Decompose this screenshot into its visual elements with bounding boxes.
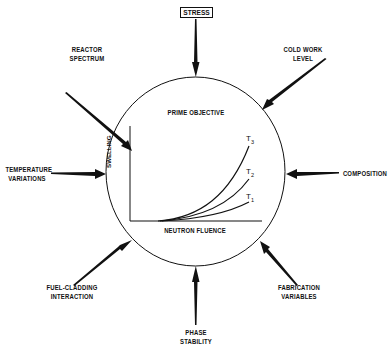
factor-fabrication-label: FABRICATION VARIABLES xyxy=(277,283,322,301)
chart-x-label: NEUTRON FLUENCE xyxy=(164,226,227,235)
arrow-temperature-icon xyxy=(51,169,106,179)
factor-reactor-spectrum-label: REACTOR SPECTRUM xyxy=(65,45,110,63)
curve-label-t3: T3 xyxy=(246,134,254,145)
diagram-canvas: STRESS REACTOR SPECTRUM COLD WORK LEVEL … xyxy=(0,0,392,353)
factor-composition-label: COMPOSITION xyxy=(343,169,388,178)
curve-t2 xyxy=(160,179,249,221)
arrow-fuel-cladding-icon xyxy=(73,240,132,286)
arrow-cold-work-icon xyxy=(262,58,327,110)
factor-stress-label: STRESS xyxy=(180,7,213,18)
curve-t3 xyxy=(158,146,249,221)
curve-label-t2: T2 xyxy=(246,167,254,178)
factor-temperature-label: TEMPERATURE VARIATIONS xyxy=(5,165,48,183)
arrow-composition-icon xyxy=(286,169,339,179)
factor-cold-work-label: COLD WORK LEVEL xyxy=(280,45,327,63)
arrow-stress-icon xyxy=(192,19,200,77)
chart-y-label: SWELLING xyxy=(105,135,112,168)
factor-fuel-cladding-label: FUEL-CLADDING INTERACTION xyxy=(46,283,98,301)
prime-objective-title: PRIME OBJECTIVE xyxy=(164,108,229,117)
arrow-fabrication-icon xyxy=(260,241,298,286)
objective-circle xyxy=(106,77,285,266)
arrow-reactor-spectrum-icon xyxy=(65,92,132,151)
factor-phase-stability-label: PHASE STABILITY xyxy=(174,328,219,346)
arrow-phase-stability-icon xyxy=(192,266,200,325)
curve-label-t1: T1 xyxy=(246,192,254,203)
